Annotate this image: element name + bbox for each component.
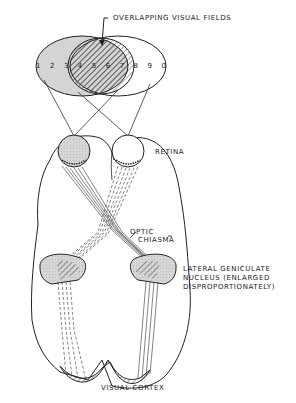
right-eye xyxy=(112,135,144,167)
left-lgn xyxy=(40,254,86,284)
field-number: 7 xyxy=(120,62,124,70)
left-eye xyxy=(58,135,90,167)
field-number: 6 xyxy=(106,62,110,70)
field-number: 3 xyxy=(64,62,68,70)
field-number: 1 xyxy=(36,62,40,70)
label-visual-cortex: VISUAL CORTEX xyxy=(101,384,164,392)
field-number: 5 xyxy=(92,62,96,70)
label-retina: RETINA xyxy=(155,148,184,156)
field-number: 9 xyxy=(148,62,152,70)
label-lgn-line1: LATERAL GENICULATE xyxy=(183,265,270,273)
field-number: 4 xyxy=(78,62,82,70)
field-number: 2 xyxy=(50,62,54,70)
label-lgn-line2: NUCLEUS (ENLARGED xyxy=(183,274,270,282)
right-lgn xyxy=(130,254,176,284)
visual-field-numbers: 1 2 3 4 5 6 7 8 9 0 xyxy=(36,62,166,70)
label-optic: OPTIC xyxy=(130,228,154,236)
label-chiasma: CHIASMA xyxy=(138,236,174,244)
field-number: 8 xyxy=(134,62,138,70)
visual-pathway-diagram xyxy=(0,0,296,403)
field-number: 0 xyxy=(161,62,165,70)
label-overlapping-visual-fields: OVERLAPPING VISUAL FIELDS xyxy=(113,14,231,22)
label-lgn-line3: DISPROPORTIONATELY) xyxy=(183,283,275,291)
